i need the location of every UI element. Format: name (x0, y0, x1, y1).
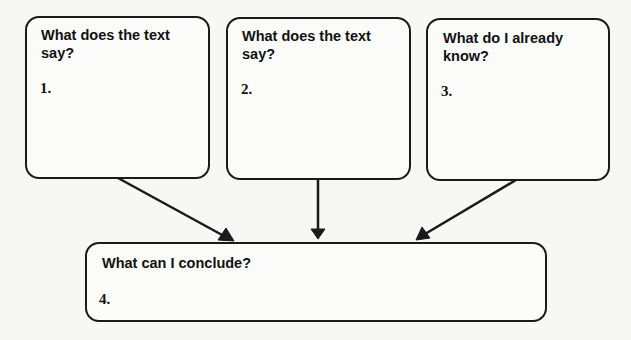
arrow-right (425, 180, 516, 234)
arrows (0, 0, 631, 340)
arrow-left (118, 178, 224, 236)
arrow-middle-head (311, 229, 325, 239)
